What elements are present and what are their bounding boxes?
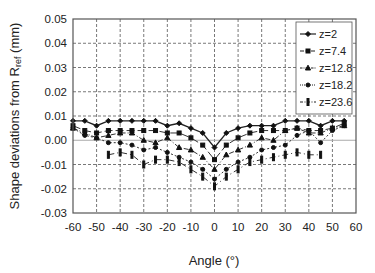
- diamond-marker-icon: [236, 126, 241, 131]
- diamond-marker-icon: [247, 123, 252, 128]
- triangle-marker-icon: [106, 133, 111, 138]
- square-marker-icon: [142, 129, 146, 133]
- circle-marker-icon: [130, 143, 134, 147]
- y-tick-label: 0.00: [45, 134, 67, 146]
- circle-marker-icon: [154, 146, 158, 150]
- triangle-marker-icon: [200, 154, 205, 159]
- legend: z=2z=7.4z=12.8z=18.2z=23.6: [296, 22, 352, 114]
- x-tick-label: 50: [326, 221, 339, 233]
- bar-marker-icon: [178, 159, 180, 166]
- x-tick-label: -20: [159, 221, 176, 233]
- circle-marker-icon: [201, 167, 205, 171]
- series-group: [70, 118, 346, 189]
- circle-marker-icon: [330, 129, 334, 133]
- y-axis-label: Shape deviations from Rref (mm): [7, 23, 23, 210]
- y-tick-label: 0.05: [45, 13, 67, 25]
- circle-marker-icon: [83, 133, 87, 137]
- triangle-marker-icon: [247, 142, 252, 147]
- bar-marker-icon: [166, 156, 168, 163]
- bar-marker-icon: [320, 151, 322, 158]
- y-axis-ticks: 0.050.040.030.020.010.00-0.01-0.02-0.03: [41, 13, 68, 219]
- circle-marker-icon: [189, 160, 193, 164]
- diamond-marker-icon: [330, 118, 335, 123]
- square-marker-icon: [260, 129, 264, 133]
- x-tick-label: 10: [232, 221, 245, 233]
- circle-marker-icon: [306, 83, 310, 87]
- legend-label: z=7.4: [319, 45, 346, 57]
- square-marker-icon: [306, 49, 310, 53]
- circle-marker-icon: [342, 124, 346, 128]
- bar-marker-icon: [225, 173, 227, 180]
- legend-label: z=12.8: [319, 62, 352, 74]
- bar-marker-icon: [119, 149, 121, 156]
- diamond-marker-icon: [94, 123, 99, 128]
- square-marker-icon: [201, 143, 205, 147]
- circle-marker-icon: [271, 146, 275, 150]
- diamond-marker-icon: [106, 118, 111, 123]
- y-tick-label: 0.02: [45, 86, 67, 98]
- triangle-marker-icon: [141, 137, 146, 142]
- bar-marker-icon: [143, 161, 145, 168]
- bar-marker-icon: [107, 151, 109, 158]
- diamond-marker-icon: [141, 118, 146, 123]
- circle-marker-icon: [319, 141, 323, 145]
- y-tick-label: -0.01: [41, 159, 67, 171]
- triangle-marker-icon: [235, 147, 240, 152]
- square-marker-icon: [271, 129, 275, 133]
- bar-marker-icon: [261, 156, 263, 163]
- y-tick-label: 0.04: [45, 37, 68, 49]
- line-chart: 0.050.040.030.020.010.00-0.01-0.02-0.03 …: [0, 0, 375, 273]
- diamond-marker-icon: [165, 123, 170, 128]
- legend-label: z=18.2: [319, 79, 352, 91]
- x-tick-label: -40: [112, 221, 129, 233]
- circle-marker-icon: [142, 148, 146, 152]
- circle-marker-icon: [118, 141, 122, 145]
- x-axis-ticks: -60-50-40-30-20-100102030405060: [65, 221, 363, 233]
- legend-label: z=2: [319, 28, 337, 40]
- diamond-marker-icon: [283, 118, 288, 123]
- square-marker-icon: [154, 129, 158, 133]
- circle-marker-icon: [260, 148, 264, 152]
- bar-marker-icon: [296, 149, 298, 156]
- x-tick-label: 20: [255, 221, 268, 233]
- x-tick-label: 40: [302, 221, 315, 233]
- square-marker-icon: [224, 143, 228, 147]
- square-marker-icon: [236, 136, 240, 140]
- circle-marker-icon: [106, 141, 110, 145]
- x-axis-label: Angle (°): [189, 253, 240, 268]
- diamond-marker-icon: [177, 121, 182, 126]
- bar-marker-icon: [155, 156, 157, 163]
- circle-marker-icon: [224, 167, 228, 171]
- bar-marker-icon: [214, 183, 216, 190]
- triangle-marker-icon: [259, 135, 264, 140]
- diamond-marker-icon: [259, 123, 264, 128]
- circle-marker-icon: [95, 136, 99, 140]
- diamond-marker-icon: [318, 123, 323, 128]
- triangle-marker-icon: [224, 152, 229, 157]
- bar-marker-icon: [237, 166, 239, 173]
- diamond-marker-icon: [153, 118, 158, 123]
- bar-marker-icon: [190, 166, 192, 173]
- bar-marker-icon: [307, 99, 309, 106]
- circle-marker-icon: [295, 133, 299, 137]
- x-tick-label: -30: [135, 221, 152, 233]
- x-tick-label: 0: [211, 221, 217, 233]
- square-marker-icon: [177, 131, 181, 135]
- circle-marker-icon: [213, 177, 217, 181]
- diamond-marker-icon: [295, 118, 300, 123]
- circle-marker-icon: [236, 160, 240, 164]
- bar-marker-icon: [284, 151, 286, 158]
- x-tick-label: -50: [88, 221, 105, 233]
- circle-marker-icon: [165, 150, 169, 154]
- square-marker-icon: [189, 136, 193, 140]
- y-tick-label: 0.03: [45, 62, 67, 74]
- square-marker-icon: [248, 131, 252, 135]
- circle-marker-icon: [283, 143, 287, 147]
- diamond-marker-icon: [118, 118, 123, 123]
- bar-marker-icon: [131, 151, 133, 158]
- triangle-marker-icon: [188, 147, 193, 152]
- square-marker-icon: [213, 158, 217, 162]
- y-tick-label: -0.02: [41, 183, 67, 195]
- triangle-marker-icon: [165, 135, 170, 140]
- circle-marker-icon: [307, 129, 311, 133]
